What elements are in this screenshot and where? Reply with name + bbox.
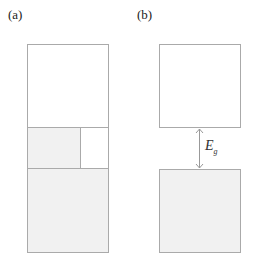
- band-gap-label: Eg: [205, 138, 218, 156]
- panel-a-middle-filled-part: [28, 128, 81, 169]
- panel-a-top-empty-band: [28, 45, 109, 128]
- band-diagram: [0, 0, 254, 265]
- panel-b-conduction-band: [160, 45, 241, 128]
- band-gap-symbol: E: [205, 138, 214, 153]
- panel-a-middle-empty-part: [81, 128, 109, 169]
- band-gap-subscript: g: [214, 147, 218, 156]
- panel-a: [28, 45, 109, 253]
- panel-b: [160, 45, 241, 253]
- panel-a-bottom-filled-band: [28, 169, 109, 253]
- panel-b-valence-band: [160, 170, 241, 253]
